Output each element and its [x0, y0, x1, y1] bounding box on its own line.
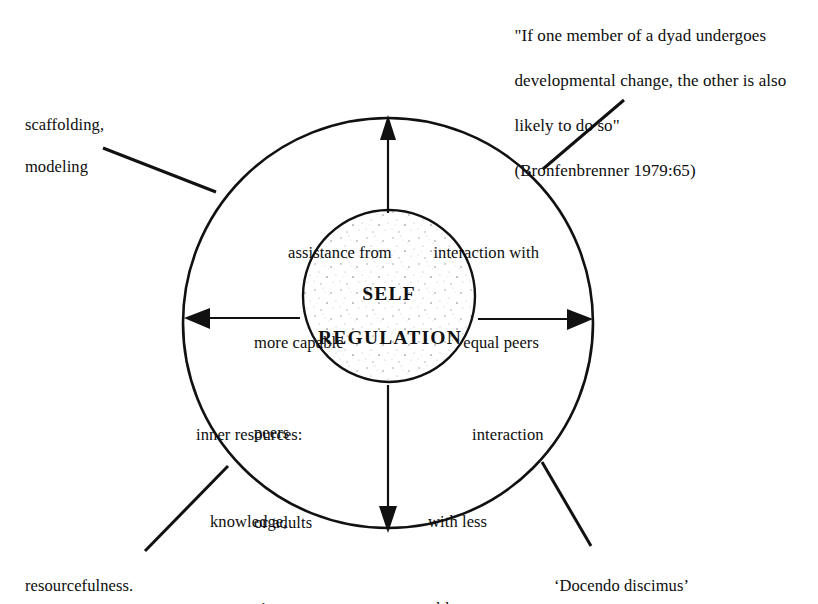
- scaffolding-line-2: modeling: [25, 157, 88, 176]
- less-capable-line-2: with less: [406, 507, 544, 536]
- leader-line-top-left: [103, 148, 216, 192]
- inner-resources-line-3: experience: [196, 594, 326, 604]
- hub-label-self: SELF: [362, 283, 416, 305]
- scaffolding-line-1: scaffolding,: [25, 115, 104, 134]
- quote-citation: (Bronfenbrenner 1979:65): [514, 161, 695, 180]
- quadrant-label-less-capable-peers: interaction with less capable peers: [406, 362, 544, 604]
- quadrant-label-inner-resources: inner resources: knowledge, experience m…: [196, 362, 326, 604]
- leader-line-bottom-right: [542, 462, 591, 546]
- docendo-discimus-label: ‘Docendo discimus’ (We learn by teaching…: [537, 556, 706, 604]
- quote-line-2: developmental change, the other is also: [514, 71, 786, 90]
- docendo-line-1: ‘Docendo discimus’: [554, 576, 689, 595]
- quote-line-3: likely to do so": [514, 116, 619, 135]
- bronfenbrenner-quote: "If one member of a dyad undergoes devel…: [497, 2, 786, 205]
- hub-label-regulation: REGULATION: [318, 327, 462, 349]
- scaffolding-modeling-label: scaffolding, modeling: [8, 93, 104, 198]
- less-capable-line-1: interaction: [406, 420, 544, 449]
- quote-line-1: "If one member of a dyad undergoes: [514, 26, 766, 45]
- resourcefulness-self-access-label: resourcefulness. self-access: [8, 556, 133, 604]
- less-capable-line-3: capable peers: [406, 594, 544, 604]
- inner-resources-line-2: knowledge,: [196, 507, 326, 536]
- assistance-line-1: assistance from: [226, 238, 392, 268]
- diagram-canvas: "If one member of a dyad undergoes devel…: [0, 0, 818, 604]
- equal-peers-line-1: interaction with: [393, 238, 539, 268]
- resourcefulness-line-1: resourcefulness.: [25, 576, 133, 595]
- inner-resources-line-1: inner resources:: [196, 420, 326, 449]
